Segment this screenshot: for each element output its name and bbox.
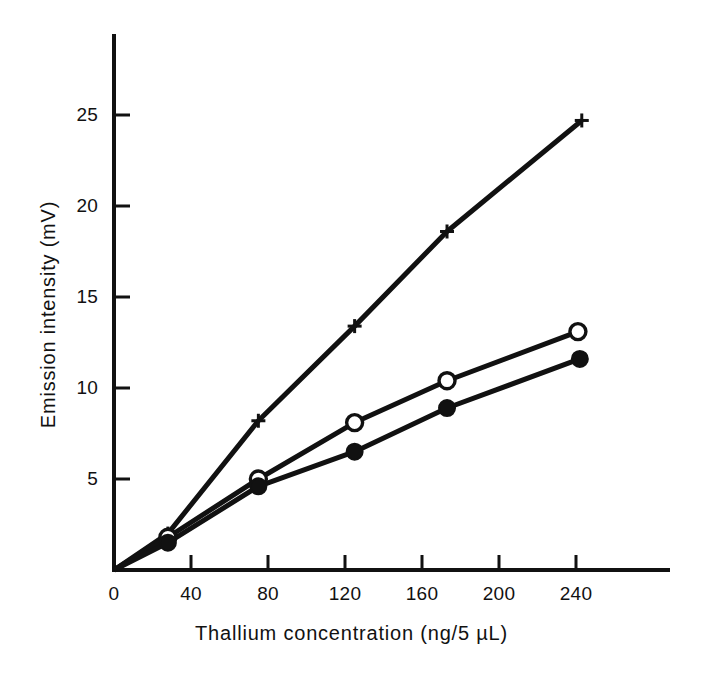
plot-canvas [0,0,703,674]
x-tick-label: 240 [536,584,616,603]
y-axis-title: Emission intensity (mV) [37,150,60,480]
marker-filled-circle [572,351,588,367]
series-line-filled-circle-series [114,359,580,570]
x-tick-label: 200 [459,584,539,603]
x-tick-label: 160 [382,584,462,603]
marker-open-circle [347,415,363,431]
chart-figure: 04080120160200240510152025 Thallium conc… [0,0,703,674]
marker-filled-circle [439,400,455,416]
x-tick-label: 40 [151,584,231,603]
x-tick-label: 120 [305,584,385,603]
series-group [114,120,582,570]
x-tick-label: 80 [228,584,308,603]
marker-filled-circle [250,478,266,494]
marker-open-circle [439,373,455,389]
marker-open-circle [570,324,586,340]
y-tick-label: 25 [28,105,98,124]
marker-filled-circle [160,535,176,551]
marker-filled-circle [347,444,363,460]
x-tick-label: 0 [74,584,154,603]
markers-group [160,113,589,550]
x-axis-title: Thallium concentration (ng/5 µL) [0,622,703,645]
series-line-plus-series [114,120,582,570]
axes-group [114,36,668,570]
